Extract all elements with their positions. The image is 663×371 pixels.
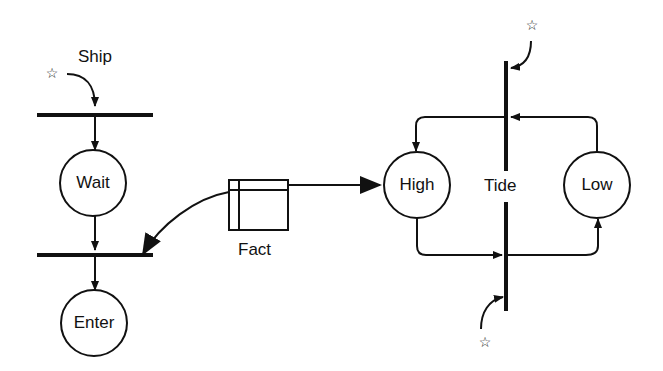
fact-box [229, 180, 288, 230]
tide-lower-input-arrow [481, 297, 503, 329]
ship-input-arrow [67, 74, 95, 106]
fact-group: Fact [143, 180, 380, 259]
fact-to-enter-arc [143, 192, 229, 254]
star-icon: ☆ [526, 17, 539, 33]
star-icon: ☆ [46, 65, 59, 81]
tide-upper-input-arrow [511, 41, 531, 68]
ship-group: Ship ☆ Wait Enter [37, 47, 153, 356]
place-high-label: High [400, 175, 435, 194]
fact-label: Fact [238, 240, 271, 259]
arc-tide-to-low [508, 219, 598, 255]
place-wait-label: Wait [76, 173, 110, 192]
ship-label: Ship [78, 47, 112, 66]
arc-high-to-tide [417, 218, 502, 255]
tide-label: Tide [484, 176, 516, 195]
petri-net-diagram: Ship ☆ Wait Enter Fact Tide ☆ ☆ High Low [0, 0, 663, 371]
star-icon: ☆ [479, 334, 492, 350]
arc-tide-to-high [416, 117, 504, 151]
arc-low-to-tide [511, 117, 597, 152]
place-low-label: Low [581, 175, 613, 194]
place-enter-label: Enter [74, 313, 115, 332]
tide-group: Tide ☆ ☆ High Low [384, 17, 630, 350]
